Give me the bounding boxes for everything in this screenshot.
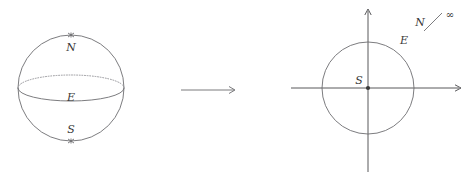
- infinity-annotation-label-north: N: [414, 16, 425, 29]
- infinity-annotation-label-infinity: ∞: [446, 9, 454, 20]
- plane-label-south: S: [355, 74, 363, 87]
- plane-group: S E N ∞: [291, 9, 461, 172]
- origin-dot: [366, 86, 370, 90]
- sphere-group: N E S: [18, 33, 124, 144]
- projection-arrow-group: [181, 87, 235, 94]
- plane-label-equator-circle: E: [399, 34, 408, 47]
- figure-canvas: N E S S E N: [0, 0, 471, 184]
- equator-back-arc: [18, 75, 124, 88]
- infinity-annotation: N ∞: [414, 9, 454, 31]
- stereographic-projection-figure: N E S S E N: [0, 0, 471, 184]
- sphere-label-north: N: [65, 41, 76, 54]
- sphere-label-south: S: [67, 123, 75, 136]
- sphere-label-equator: E: [66, 91, 75, 104]
- infinity-annotation-connector: [424, 13, 442, 31]
